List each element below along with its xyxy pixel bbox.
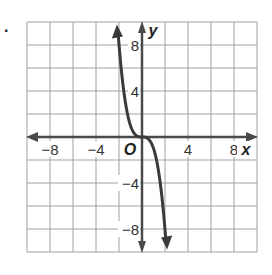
y-axis-up-arrow-icon xyxy=(138,21,146,33)
curve-top-arrow-icon xyxy=(112,24,123,38)
x-tick-label: −8 xyxy=(41,141,58,158)
y-tick-label: 4 xyxy=(131,83,139,100)
y-axis-label: y xyxy=(148,22,159,39)
x-tick-label: 4 xyxy=(184,141,192,158)
x-tick-label: −4 xyxy=(87,141,104,158)
origin-label: O xyxy=(124,141,137,158)
y-axis-down-arrow-icon xyxy=(138,241,146,253)
y-tick-label: 8 xyxy=(131,37,139,54)
y-tick-label: −8 xyxy=(122,221,139,238)
x-axis-left-arrow-icon xyxy=(26,132,38,142)
x-axis-label: x xyxy=(241,141,252,158)
cubic-function-graph: −8−44884−4−8Oxy xyxy=(0,0,272,275)
curve-bottom-arrow-icon xyxy=(161,236,172,250)
y-tick-label: −4 xyxy=(122,175,139,192)
x-tick-label: 8 xyxy=(230,141,238,158)
